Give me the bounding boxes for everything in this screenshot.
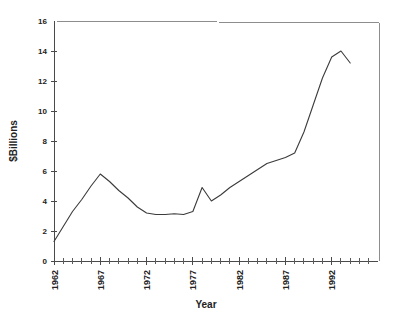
y-axis-tick-labels: 0246810121416 (38, 17, 47, 266)
y-axis-tick-label: 0 (43, 257, 48, 266)
x-axis-tick-labels: 1962196719721977198219871992 (50, 270, 338, 290)
y-axis-tick-label: 4 (43, 197, 48, 206)
y-axis-title: $Billions (8, 120, 19, 162)
y-axis-tick-label: 14 (38, 47, 47, 56)
x-axis-tick-label: 1967 (96, 270, 106, 290)
chart-frame-top (54, 21, 379, 23)
y-axis-tick-label: 12 (38, 77, 47, 86)
y-axis-tick-label: 8 (43, 137, 48, 146)
x-axis-title: Year (195, 299, 216, 310)
x-axis-tick-label: 1982 (235, 270, 245, 290)
x-axis-tick-label: 1977 (188, 270, 198, 290)
chart-container: 0246810121416 19621967197219771982198719… (0, 0, 401, 326)
y-axis-tick-label: 2 (43, 227, 48, 236)
x-axis-tick-label: 1987 (281, 270, 291, 290)
y-axis-tick-label: 10 (38, 107, 47, 116)
x-axis-tick-label: 1962 (50, 270, 60, 290)
data-series-line (54, 51, 350, 242)
y-axis-tick-label: 16 (38, 17, 47, 26)
x-axis-tick-label: 1992 (327, 270, 337, 290)
y-axis-tick-label: 6 (43, 167, 48, 176)
x-axis-tick-label: 1972 (142, 270, 152, 290)
line-chart: 0246810121416 19621967197219771982198719… (0, 0, 401, 326)
